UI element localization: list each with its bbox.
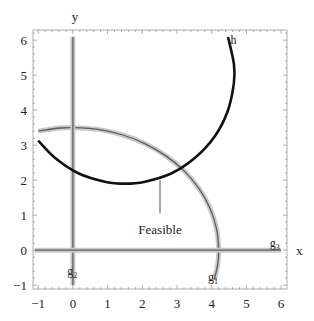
y-tick-label: 0 <box>21 243 28 258</box>
curves <box>35 37 281 286</box>
curve-label-g3: g3 <box>270 236 280 252</box>
x-tick-label: 3 <box>174 296 181 311</box>
x-tick-label: 6 <box>278 296 285 311</box>
curve-g1 <box>38 128 218 280</box>
y-tick-label: −1 <box>13 278 27 293</box>
curve-label-h: h <box>231 33 237 47</box>
y-tick-label: 5 <box>21 68 28 83</box>
y-tick-label: 6 <box>21 33 28 48</box>
curve-label-g2: g2 <box>67 264 77 280</box>
curve-h <box>38 37 234 184</box>
constraint-band <box>38 128 218 280</box>
chart: −10123456−10123456 Feasible g1g2g3h xy <box>0 0 314 321</box>
x-tick-label: −1 <box>31 296 45 311</box>
y-axis-label: y <box>72 9 79 24</box>
y-tick-label: 2 <box>21 173 28 188</box>
tick-labels: −10123456−10123456 <box>13 33 285 311</box>
x-tick-label: 4 <box>208 296 215 311</box>
constraint-line <box>38 128 218 280</box>
feasible-label: Feasible <box>138 222 182 237</box>
equality-line <box>38 37 234 184</box>
x-tick-label: 1 <box>104 296 111 311</box>
y-tick-label: 1 <box>21 208 28 223</box>
x-tick-label: 5 <box>243 296 250 311</box>
plot-canvas: −10123456−10123456 Feasible g1g2g3h xy <box>0 0 314 321</box>
y-tick-label: 3 <box>21 138 28 153</box>
x-tick-label: 2 <box>139 296 146 311</box>
axis-labels: xy <box>72 9 303 258</box>
x-tick-label: 0 <box>70 296 77 311</box>
annotations: Feasible <box>138 180 182 237</box>
y-tick-label: 4 <box>21 103 28 118</box>
x-axis-label: x <box>296 243 303 258</box>
